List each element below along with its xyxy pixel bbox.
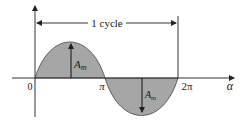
x-axis-label: α bbox=[227, 79, 234, 93]
sine-wave-diagram: 1 cycle Am Am 0 π 2π α bbox=[0, 0, 248, 125]
cycle-label: 1 cycle bbox=[91, 17, 123, 29]
positive-half-cycle bbox=[35, 42, 105, 78]
pi-label: π bbox=[99, 80, 105, 92]
origin-label: 0 bbox=[28, 81, 33, 92]
two-pi-label: 2π bbox=[181, 80, 193, 92]
